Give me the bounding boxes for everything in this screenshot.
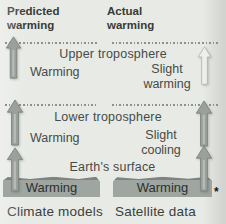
up-arrow-icon <box>5 36 22 79</box>
upper-actual-trend-label: Slight warming <box>139 62 195 92</box>
warming-comparison-diagram: Predicted warming Actual warming Upper t… <box>0 0 226 224</box>
actual-column-caption: Satellite data <box>115 204 196 219</box>
actual-warming-heading: Actual warming <box>107 5 173 32</box>
up-arrow-icon <box>6 147 24 192</box>
up-arrow-icon <box>195 100 213 147</box>
upper-predicted-trend-label: Warming <box>30 65 80 79</box>
surface-predicted-trend-label: Warming <box>26 178 78 195</box>
upper-troposphere-boundary-right <box>112 42 219 44</box>
upper-troposphere-label: Upper troposphere <box>38 47 188 61</box>
lower-predicted-trend-label: Warming <box>30 131 80 145</box>
lower-troposphere-label: Lower troposphere <box>33 110 183 124</box>
predicted-warming-heading: Predicted warming <box>7 5 73 32</box>
surface-actual-trend-label: Warming <box>137 178 189 195</box>
lower-actual-trend-label: Slight cooling <box>133 128 189 158</box>
up-arrow-icon <box>6 99 24 146</box>
earths-surface-label: Earth's surface <box>35 160 190 174</box>
up-arrow-icon <box>195 145 213 192</box>
predicted-column-caption: Climate models <box>7 204 103 219</box>
up-arrow-icon <box>197 46 212 85</box>
footnote-asterisk: * <box>214 185 219 199</box>
